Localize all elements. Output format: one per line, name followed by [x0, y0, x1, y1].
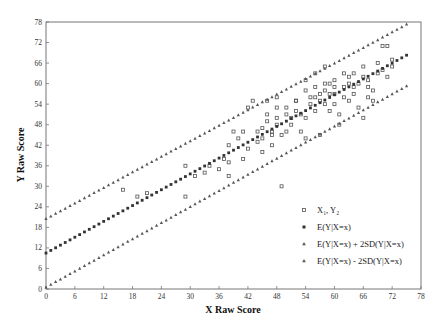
- triangle-marker: [97, 256, 100, 259]
- triangle-marker: [107, 251, 110, 254]
- triangle-marker: [381, 36, 384, 39]
- observed-point-marker: [251, 99, 254, 102]
- triangle-marker: [68, 204, 71, 207]
- observed-point-marker: [184, 164, 187, 167]
- triangle-marker: [222, 186, 225, 189]
- triangle-marker: [78, 199, 81, 202]
- observed-point-marker: [246, 147, 249, 150]
- observed-point-marker: [338, 113, 341, 116]
- triangle-marker: [261, 165, 264, 168]
- expected-value-marker: [400, 56, 403, 59]
- y-tick-label: 66: [35, 59, 43, 68]
- observed-point-marker: [275, 106, 278, 109]
- observed-point-marker: [347, 99, 350, 102]
- observed-point-marker: [145, 192, 148, 195]
- expected-value-marker: [179, 178, 182, 181]
- triangle-marker: [179, 144, 182, 147]
- expected-value-marker: [237, 146, 240, 149]
- y-tick-label: 78: [35, 18, 43, 27]
- triangle-marker: [213, 192, 216, 195]
- expected-value-marker: [405, 54, 408, 57]
- triangle-marker: [174, 147, 177, 150]
- expected-value-marker: [323, 99, 326, 102]
- expected-value-marker: [256, 136, 259, 139]
- triangle-marker: [347, 116, 350, 119]
- x-tick-label: 36: [215, 292, 223, 301]
- expected-value-marker: [376, 70, 379, 73]
- observed-point-marker: [333, 79, 336, 82]
- triangle-marker: [78, 267, 81, 270]
- triangle-marker: [54, 280, 57, 283]
- observed-point-marker: [227, 144, 230, 147]
- observed-point-marker: [232, 130, 235, 133]
- observed-point-marker: [386, 44, 389, 47]
- triangle-marker: [280, 154, 283, 157]
- triangle-marker: [381, 98, 384, 101]
- expected-value-marker: [184, 175, 187, 178]
- expected-value-marker: [64, 241, 67, 244]
- triangle-marker: [193, 137, 196, 140]
- observed-point-marker: [362, 65, 365, 68]
- triangle-marker: [49, 283, 52, 286]
- triangle-marker: [227, 184, 230, 187]
- x-tick-label: 0: [44, 292, 48, 301]
- triangle-marker: [64, 275, 67, 278]
- observed-point-marker: [343, 96, 346, 99]
- observed-point-marker: [256, 140, 259, 143]
- triangle-marker: [362, 46, 365, 49]
- triangle-marker: [174, 213, 177, 216]
- expected-value-marker: [93, 225, 96, 228]
- y-tick-label: 36: [35, 161, 43, 170]
- expected-value-marker: [319, 101, 322, 104]
- triangle-marker: [333, 61, 336, 64]
- expected-value-marker: [391, 62, 394, 65]
- triangle-marker: [97, 189, 100, 192]
- triangle-marker: [386, 33, 389, 36]
- triangle-marker: [270, 95, 273, 98]
- triangle-marker: [203, 197, 206, 200]
- triangle-marker: [256, 167, 259, 170]
- observed-point-marker: [314, 110, 317, 113]
- y-tick-label: 6: [38, 264, 42, 273]
- triangle-marker: [347, 54, 350, 57]
- scatter-plot: 06121824303642485460667278 0612182430364…: [0, 0, 444, 328]
- triangle-marker: [179, 210, 182, 213]
- observed-point-marker: [261, 137, 264, 140]
- observed-point-marker: [309, 96, 312, 99]
- expected-value-marker: [266, 130, 269, 133]
- observed-point-marker: [304, 137, 307, 140]
- triangle-marker: [88, 194, 91, 197]
- triangle-marker: [141, 165, 144, 168]
- triangle-marker: [222, 121, 225, 124]
- x-axis-ticks: 06121824303642485460667278: [44, 286, 425, 301]
- triangle-marker: [208, 129, 211, 132]
- triangle-marker: [333, 124, 336, 127]
- triangle-marker: [59, 209, 62, 212]
- observed-point-marker: [261, 151, 264, 154]
- triangle-marker: [285, 87, 288, 90]
- triangle-marker: [294, 82, 297, 85]
- expected-value-marker: [386, 64, 389, 67]
- legend-marker-lower-band: [302, 259, 306, 262]
- y-tick-label: 24: [35, 202, 43, 211]
- triangle-marker: [352, 51, 355, 54]
- triangle-marker: [391, 30, 394, 33]
- triangle-marker: [328, 64, 331, 67]
- triangle-marker: [64, 207, 67, 210]
- triangle-marker: [88, 261, 91, 264]
- observed-point-marker: [222, 157, 225, 160]
- x-tick-label: 30: [186, 292, 194, 301]
- triangle-marker: [299, 80, 302, 83]
- expected-value-marker: [146, 196, 149, 199]
- expected-value-marker: [170, 183, 173, 186]
- triangle-marker: [342, 56, 345, 59]
- triangle-marker: [246, 173, 249, 176]
- observed-point-marker: [352, 72, 355, 75]
- expected-value-marker: [73, 236, 76, 239]
- observed-point-marker: [304, 89, 307, 92]
- expected-value-marker: [285, 120, 288, 123]
- expected-value-marker: [242, 143, 245, 146]
- observed-point-marker: [333, 103, 336, 106]
- expected-value-marker: [381, 67, 384, 70]
- triangle-marker: [285, 151, 288, 154]
